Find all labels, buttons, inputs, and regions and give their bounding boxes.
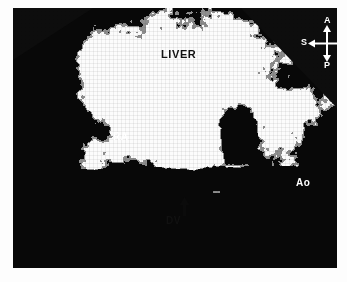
compass-label-posterior: P [324,61,330,70]
annotation-label-aorta: Ao [296,178,311,188]
annotation-label-right-atrium: RA [113,132,129,142]
screenshot-root: LIVER RA Ao DV [0,0,347,282]
annotation-label-liver: LIVER [161,49,196,60]
orientation-compass-icon: A P S I [301,16,337,71]
ultrasound-scan-frame: LIVER RA Ao DV [13,8,337,268]
ultrasound-image-canvas [13,8,337,268]
annotation-label-ductus-venosus: DV [166,216,181,226]
compass-label-anterior: A [324,16,331,25]
up-arrow-icon [179,197,190,216]
compass-label-superior: S [301,38,307,47]
